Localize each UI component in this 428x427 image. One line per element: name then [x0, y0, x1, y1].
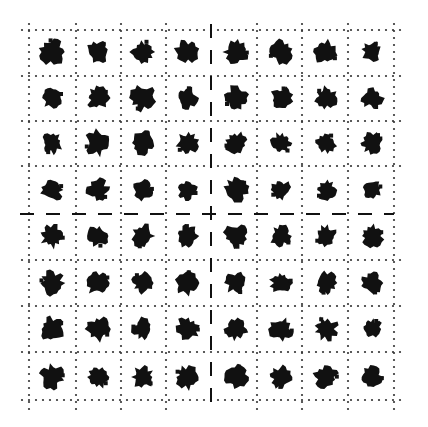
aggregate-blob: [362, 365, 384, 387]
aggregate-blob: [41, 316, 63, 340]
aggregate-blob: [175, 270, 200, 296]
aggregate-blob: [132, 223, 156, 248]
aggregate-blob: [39, 38, 65, 65]
aggregate-blob: [40, 180, 63, 201]
aggregate-blob: [131, 317, 150, 341]
aggregate-blob: [178, 181, 198, 201]
aggregate-blob: [129, 85, 156, 113]
aggregate-blob: [224, 318, 249, 342]
aggregate-blob: [317, 180, 337, 202]
aggregate-blob: [87, 86, 110, 108]
aggregate-blob: [222, 39, 248, 64]
aggregate-blob: [133, 179, 154, 201]
aggregate-blob: [270, 132, 292, 152]
aggregate-blob: [269, 39, 293, 65]
aggregate-blob: [43, 133, 62, 155]
aggregate-blob: [87, 41, 107, 63]
aggregate-blob: [361, 271, 383, 294]
aggregate-blob: [87, 367, 109, 388]
aggregate-blob: [174, 40, 199, 63]
aggregate-blob: [224, 364, 249, 389]
aggregate-blob: [223, 225, 247, 249]
aggregate-blob: [85, 317, 111, 343]
aggregate-blob: [317, 271, 338, 295]
aggregate-blob: [132, 130, 154, 156]
aggregate-blob: [176, 365, 199, 391]
aggregate-blob: [315, 224, 336, 247]
aggregate-blob: [224, 272, 245, 294]
aggregate-blob: [268, 318, 294, 342]
aggregate-blob: [131, 365, 153, 388]
aggregate-blob: [269, 273, 293, 292]
aggregate-blob: [362, 224, 384, 249]
aggregate-blob: [39, 363, 65, 390]
aggregate-blob: [176, 317, 200, 340]
aggregate-blob: [360, 132, 382, 155]
aggregate-blob: [313, 365, 339, 389]
aggregate-blob: [315, 133, 337, 154]
aggregate-blob: [271, 225, 292, 248]
aggregate-blob: [224, 85, 249, 109]
aggregate-blob: [42, 88, 63, 109]
aggregate-blob: [41, 224, 65, 250]
aggregate-blob: [87, 226, 108, 248]
aggregate-blob: [270, 365, 293, 390]
aggregate-blob: [178, 224, 199, 248]
aggregate-shapes-grid-figure: [0, 0, 428, 427]
aggregate-blob: [361, 87, 385, 109]
aggregate-blob: [224, 177, 250, 203]
aggregate-blob: [313, 39, 337, 63]
aggregate-blob: [179, 86, 200, 109]
figure-canvas: [0, 0, 428, 427]
aggregate-blob: [361, 42, 380, 63]
aggregate-blob: [363, 181, 382, 198]
aggregate-blob: [364, 318, 382, 337]
aggregate-blob: [129, 40, 155, 64]
aggregate-blob: [176, 132, 200, 154]
aggregate-blob: [40, 269, 66, 296]
aggregate-blob: [225, 132, 248, 155]
aggregate-blob: [315, 317, 339, 342]
aggregate-blob: [271, 86, 293, 108]
aggregate-blob: [131, 271, 153, 295]
aggregate-blob: [86, 177, 110, 201]
aggregate-blob: [271, 181, 291, 200]
aggregate-blob: [85, 128, 109, 157]
aggregate-blob: [87, 271, 110, 293]
aggregate-blob: [314, 85, 337, 109]
